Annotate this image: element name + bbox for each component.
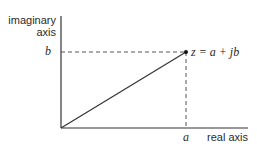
point-z: [184, 50, 188, 54]
x-axis-label: real axis: [207, 131, 248, 143]
tick-label-b: b: [45, 45, 51, 57]
vector-z: [61, 52, 186, 128]
y-axis-label-line1: imaginary: [4, 14, 56, 26]
y-axis-label-line2: axis: [4, 26, 56, 38]
point-label-z: z = a + jb: [191, 46, 239, 58]
tick-label-a: a: [183, 131, 189, 143]
y-axis-label: imaginary axis: [4, 14, 56, 38]
